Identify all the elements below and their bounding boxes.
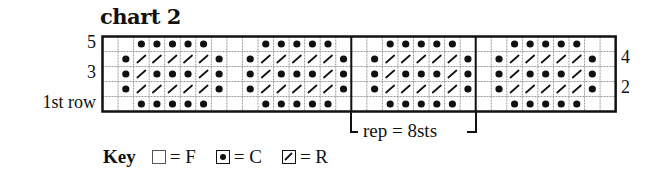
dot-icon: [449, 40, 456, 47]
dot-icon: [216, 85, 223, 92]
slash-icon: [573, 86, 581, 93]
dot-icon: [293, 70, 300, 77]
dot-icon: [293, 100, 300, 107]
dot-icon: [184, 70, 191, 77]
dot-icon: [293, 40, 300, 47]
dot-icon: [153, 70, 160, 77]
slash-icon: [262, 86, 270, 93]
dot-icon: [527, 40, 534, 47]
dot-icon: [527, 100, 534, 107]
dot-icon: [542, 100, 549, 107]
dot-icon: [418, 100, 425, 107]
dot-icon: [449, 100, 456, 107]
dot-icon: [418, 70, 425, 77]
dot-icon: [387, 40, 394, 47]
dot-icon: [573, 100, 580, 107]
dot-icon: [527, 70, 534, 77]
dot-icon: [433, 70, 440, 77]
dot-icon: [247, 70, 254, 77]
dot-icon: [402, 40, 409, 47]
slash-icon: [293, 56, 301, 63]
slash-icon: [137, 86, 145, 93]
dot-icon: [340, 55, 347, 62]
slash-icon: [386, 71, 394, 78]
dot-icon: [495, 55, 502, 62]
dot-icon: [169, 40, 176, 47]
dot-icon: [558, 100, 565, 107]
slash-icon: [542, 56, 550, 63]
slash-icon: [402, 86, 410, 93]
slash-icon: [293, 86, 301, 93]
slash-icon: [433, 86, 441, 93]
dot-icon: [589, 85, 596, 92]
key-legend: Key = F = C = R: [103, 146, 342, 168]
dot-icon: [558, 70, 565, 77]
slash-icon: [511, 56, 519, 63]
dot-icon: [278, 70, 285, 77]
dot-icon: [122, 70, 129, 77]
dot-icon: [200, 40, 207, 47]
slash-icon: [573, 71, 581, 78]
dot-icon: [542, 40, 549, 47]
row-label-right: 2: [621, 78, 630, 96]
dot-icon: [464, 85, 471, 92]
slash-icon: [573, 56, 581, 63]
dot-icon: [278, 40, 285, 47]
dot-icon: [309, 40, 316, 47]
dot-icon: [340, 85, 347, 92]
slash-icon: [557, 86, 565, 93]
slash-icon: [511, 71, 519, 78]
slash-icon: [308, 86, 316, 93]
slash-icon: [526, 86, 534, 93]
dot-icon: [262, 40, 269, 47]
dot-icon: [371, 70, 378, 77]
key-item-f: = F: [152, 146, 196, 168]
dot-icon: [278, 100, 285, 107]
dot-icon: [511, 100, 518, 107]
knitting-chart-grid: [101, 35, 617, 113]
bracket-left-line: [350, 112, 352, 131]
dot-icon: [511, 40, 518, 47]
slash-icon: [153, 56, 161, 63]
row-label-left: 5: [0, 33, 96, 51]
slash-icon: [168, 56, 176, 63]
bracket-left-foot: [350, 131, 358, 133]
key-item-text: = R: [300, 146, 328, 168]
slash-icon: [386, 56, 394, 63]
slash-icon: [262, 56, 270, 63]
key-item-c: = C: [216, 146, 262, 168]
dot-icon: [589, 55, 596, 62]
dot-icon: [153, 40, 160, 47]
slash-icon: [324, 86, 332, 93]
slash-icon: [184, 86, 192, 93]
slash-icon: [433, 56, 441, 63]
dot-icon: [309, 100, 316, 107]
slash-icon: [324, 71, 332, 78]
slash-icon: [511, 86, 519, 93]
repeat-label: rep = 8sts: [363, 120, 437, 142]
dot-icon: [122, 85, 129, 92]
dot-icon: [216, 70, 223, 77]
row-label-left: 1st row: [0, 93, 96, 111]
dot-icon: [542, 70, 549, 77]
dot-icon: [589, 70, 596, 77]
dot-square-icon: [216, 150, 230, 164]
slash-icon: [184, 56, 192, 63]
dot-icon: [169, 100, 176, 107]
key-item-r: = R: [282, 146, 328, 168]
key-label: Key: [103, 146, 136, 168]
slash-icon: [137, 56, 145, 63]
dot-icon: [153, 100, 160, 107]
dot-icon: [464, 70, 471, 77]
dot-icon: [309, 70, 316, 77]
dot-icon: [138, 100, 145, 107]
bracket-right-foot: [467, 131, 475, 133]
dot-icon: [433, 40, 440, 47]
dot-icon: [371, 85, 378, 92]
slash-icon: [402, 56, 410, 63]
slash-icon: [417, 86, 425, 93]
dot-icon: [495, 85, 502, 92]
slash-icon: [542, 86, 550, 93]
slash-icon: [417, 56, 425, 63]
slash-icon: [386, 86, 394, 93]
